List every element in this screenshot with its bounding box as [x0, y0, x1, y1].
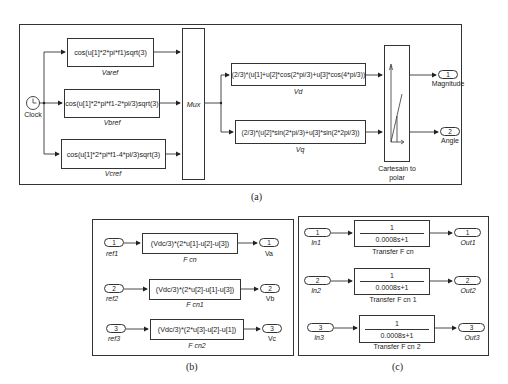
tf-denominator: 0.0008s+1 — [381, 332, 414, 339]
vd-block[interactable]: (2/3)*(u[1]+u[2]*cos(2*pi/3)+u[3]*cos(4*… — [231, 63, 366, 86]
fcn-expr: (Vdc/3)*(2*u[1]-u[2]-u[3]) — [151, 239, 229, 248]
fraction-bar — [360, 281, 424, 282]
port-number: 3 — [470, 324, 474, 331]
port-number: 2 — [448, 128, 452, 135]
outport-vb[interactable]: 2 — [260, 284, 280, 293]
outport-out3[interactable]: 3 — [458, 323, 485, 332]
outport-angle-label: Angle — [436, 137, 464, 144]
inport-ref2[interactable]: 2 — [104, 284, 124, 293]
cartesian-to-polar-block[interactable] — [384, 45, 410, 162]
port-number: 2 — [268, 285, 272, 292]
transfer-fcn-1-label: Transfer F cn 1 — [363, 296, 423, 303]
outport-va-label: Va — [259, 250, 279, 257]
outport-vc[interactable]: 3 — [262, 324, 282, 333]
outport-out2-label: Out2 — [456, 287, 480, 294]
outport-out1-label: Out1 — [456, 239, 480, 246]
inport-ref2-label: ref2 — [104, 295, 120, 302]
inport-in1[interactable]: 1 — [304, 228, 331, 237]
fcn-expr: cos(u[1]*2*pi*f1-2*pi/3)sqrt(3) — [65, 99, 158, 108]
port-number: 2 — [112, 285, 116, 292]
fcn-expr: cos(u[1]*2*pi*f1)sqrt(3) — [74, 48, 147, 57]
port-number: 1 — [466, 229, 470, 236]
fcn-block-fcn2[interactable]: (Vdc/3)*(2*u[3]-u[2]-u[1]) — [150, 319, 244, 340]
tf-denominator: 0.0008s+1 — [376, 284, 409, 291]
inport-ref3[interactable]: 3 — [106, 324, 126, 333]
port-number: 1 — [446, 71, 450, 78]
fcn-expr: (Vdc/3)*(2*u[2]-u[1]-u[3]) — [156, 285, 234, 294]
caption-b: (b) — [186, 361, 198, 372]
port-number: 1 — [267, 239, 271, 246]
tf-numerator: 1 — [390, 272, 394, 279]
polar-plot-icon — [385, 54, 409, 154]
outport-magnitude[interactable]: 1 — [438, 70, 458, 79]
converter-label: Cartesain to polar — [372, 164, 422, 182]
port-number: 3 — [270, 325, 274, 332]
fcn-name-varef: Varef — [90, 69, 130, 76]
transfer-fcn-block[interactable]: 1 0.0008s+1 — [354, 220, 430, 247]
fcn-name-vbref: Vbref — [92, 119, 132, 126]
clock-label: Clock — [20, 111, 46, 118]
fcn-block-fcn2-label: F cn2 — [180, 342, 214, 349]
transfer-fcn-2-block[interactable]: 1 0.0008s+1 — [359, 315, 435, 343]
fcn-block-fcn-label: F cn — [175, 256, 205, 263]
caption-c: (c) — [392, 361, 403, 372]
outport-out3-label: Out3 — [460, 334, 484, 341]
inport-in2[interactable]: 2 — [304, 276, 331, 285]
fcn-block-fcn1-label: F cn1 — [178, 301, 212, 308]
outport-va[interactable]: 1 — [259, 238, 279, 247]
inport-in1-label: In1 — [308, 239, 324, 246]
port-number: 3 — [114, 325, 118, 332]
caption-a: (a) — [251, 191, 262, 202]
port-number: 2 — [316, 277, 320, 284]
port-number: 2 — [466, 277, 470, 284]
inport-ref1[interactable]: 1 — [104, 238, 124, 247]
inport-ref3-label: ref3 — [106, 335, 122, 342]
inport-in3[interactable]: 3 — [307, 323, 334, 332]
transfer-fcn-label: Transfer F cn — [365, 248, 421, 255]
port-number: 1 — [316, 229, 320, 236]
fcn-block-vbref[interactable]: cos(u[1]*2*pi*f1-2*pi/3)sqrt(3) — [64, 89, 160, 118]
tf-numerator: 1 — [390, 224, 394, 231]
vq-label: Vq — [290, 146, 310, 153]
transfer-fcn-2-label: Transfer F cn 2 — [367, 343, 427, 350]
vq-block[interactable]: (2/3)*(u[2]*sin(2*pi/3)+u[3]*sin(2*2pi/3… — [235, 120, 366, 144]
fcn-expr: (Vdc/3)*(2*u[3]-u[2]-u[1]) — [158, 325, 236, 334]
mux-label: Mux — [187, 100, 201, 109]
outport-angle[interactable]: 2 — [440, 127, 460, 136]
outport-magnitude-label: Magnitude — [428, 80, 468, 87]
inport-in3-label: In3 — [311, 334, 327, 341]
vd-label: Vd — [288, 88, 308, 95]
outport-out2[interactable]: 2 — [454, 276, 481, 285]
vd-expr: (2/3)*(u[1]+u[2]*cos(2*pi/3)+u[3]*cos(4*… — [232, 71, 365, 78]
fcn-expr: cos(u[1]*2*pi*f1-4*pi/3)sqrt(3) — [67, 150, 160, 159]
transfer-fcn-1-block[interactable]: 1 0.0008s+1 — [354, 268, 430, 295]
tf-denominator: 0.0008s+1 — [376, 236, 409, 243]
outport-out1[interactable]: 1 — [454, 228, 481, 237]
port-number: 1 — [112, 239, 116, 246]
fcn-block-vcref[interactable]: cos(u[1]*2*pi*f1-4*pi/3)sqrt(3) — [61, 139, 166, 169]
fraction-bar — [360, 233, 424, 234]
inport-ref1-label: ref1 — [104, 250, 120, 257]
fcn-name-vcref: Vcref — [93, 170, 133, 177]
fcn-block-fcn1[interactable]: (Vdc/3)*(2*u[2]-u[1]-u[3]) — [149, 279, 241, 300]
mux-block[interactable]: Mux — [182, 28, 205, 180]
inport-in2-label: In2 — [308, 287, 324, 294]
outport-vc-label: Vc — [262, 335, 282, 342]
fcn-block-varef[interactable]: cos(u[1]*2*pi*f1)sqrt(3) — [67, 38, 154, 67]
fcn-block-fcn[interactable]: (Vdc/3)*(2*u[1]-u[2]-u[3]) — [142, 233, 238, 254]
vq-expr: (2/3)*(u[2]*sin(2*pi/3)+u[3]*sin(2*2pi/3… — [241, 129, 359, 136]
port-number: 3 — [319, 324, 323, 331]
fraction-bar — [365, 329, 429, 330]
tf-numerator: 1 — [395, 320, 399, 327]
outport-vb-label: Vb — [260, 295, 280, 302]
clock-icon[interactable] — [25, 95, 41, 111]
